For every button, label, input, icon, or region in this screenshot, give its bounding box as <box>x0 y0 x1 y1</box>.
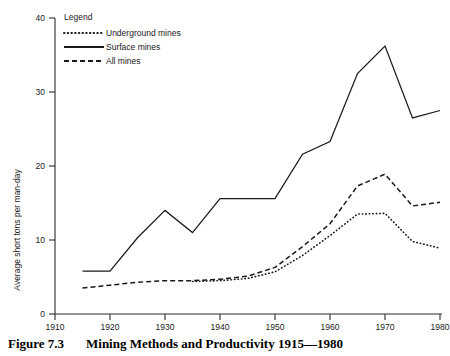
y-axis-title: Average short tons per man-day <box>12 169 22 291</box>
y-tick-label-20: 20 <box>36 161 46 171</box>
x-tick-label-1920: 1920 <box>101 322 120 332</box>
figure-container: 40 30 20 10 0 Average short tons per man… <box>0 0 450 356</box>
legend: Legend Underground mines Surface mines A… <box>64 12 181 66</box>
y-axis-ticks <box>49 18 55 314</box>
legend-label-underground-mines: Underground mines <box>106 28 181 38</box>
line-chart: 40 30 20 10 0 Average short tons per man… <box>0 0 450 340</box>
figure-caption: Figure 7.3 Mining Methods and Productivi… <box>0 336 450 356</box>
x-tick-label-1970: 1970 <box>376 322 395 332</box>
x-tick-label-1950: 1950 <box>266 322 285 332</box>
x-axis-ticks <box>55 314 440 320</box>
x-tick-label-1930: 1930 <box>156 322 175 332</box>
y-tick-label-0: 0 <box>40 309 45 319</box>
y-axis-tick-labels: 40 30 20 10 0 <box>36 13 46 319</box>
legend-label-all-mines: All mines <box>106 56 140 66</box>
x-axis-tick-labels: 1910 1920 1930 1940 1950 1960 1970 1980 <box>46 322 450 332</box>
y-tick-label-40: 40 <box>36 13 46 23</box>
x-tick-label-1910: 1910 <box>46 322 65 332</box>
series-line-underground-mines <box>193 213 441 281</box>
y-tick-label-10: 10 <box>36 235 46 245</box>
legend-title: Legend <box>64 12 93 22</box>
y-tick-label-30: 30 <box>36 87 46 97</box>
series-line-surface-mines <box>83 46 441 271</box>
x-tick-label-1960: 1960 <box>321 322 340 332</box>
x-tick-label-1980: 1980 <box>431 322 450 332</box>
legend-label-surface-mines: Surface mines <box>106 42 160 52</box>
x-tick-label-1940: 1940 <box>211 322 230 332</box>
figure-caption-number: Figure 7.3 <box>8 336 64 352</box>
figure-caption-text: Mining Methods and Productivity 1915—198… <box>86 336 343 352</box>
series-line-all-mines <box>83 174 441 288</box>
